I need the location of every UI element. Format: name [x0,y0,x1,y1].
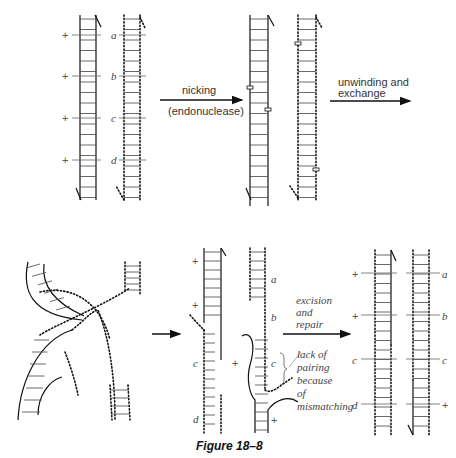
marker-lines [72,35,146,160]
strand-dotted [116,186,124,200]
strand-dotted [40,290,110,340]
mismatch-annotation: lack of pairing because of mismatching [280,348,354,412]
dotted-duplex [116,15,145,202]
strand-solid [268,15,274,26]
annotation-line-1: lack of [297,348,329,360]
figure-diagram: + + + + a b c d nicking (endonuclease) u… [0,0,456,458]
marker-c: c [271,357,276,369]
marker-plus: + [442,399,448,411]
panel-nicked [246,15,322,206]
strand-dotted [316,17,322,28]
marker-d: d [111,154,117,166]
step-label-and: and [296,306,313,318]
step-label-excision: excision [296,294,333,306]
marker-plus-1: + [62,29,68,41]
annotation-line-5: mismatching [297,400,354,412]
strand-solid [242,335,255,433]
marker-a: a [111,29,117,41]
base-pair [26,264,40,268]
marker-c: c [111,112,116,124]
marker-plus: + [352,310,358,322]
marker-c: c [442,354,447,366]
nick-icon [265,108,271,111]
panel-repaired [361,250,440,435]
marker-b: b [111,70,117,82]
marker-plus-3: + [62,112,68,124]
strand-solid [221,248,226,256]
nick-icon [247,86,253,89]
step-label-nicking: nicking [182,84,216,96]
solid-duplex-nicked [246,15,274,206]
annotation-line-3: because [297,374,333,386]
panel-exchange [18,262,140,420]
figure-caption: Figure 18–8 [196,439,263,453]
strand-dotted [265,378,292,391]
panel-initial: + + + + a b c d [62,15,146,202]
strand-solid [18,330,72,420]
marker-plus-2: + [62,70,68,82]
marker-plus: + [192,255,198,267]
marker-plus-4: + [62,154,68,166]
panel-heteroduplex [190,248,298,433]
step-unwinding: unwinding and exchange [330,76,410,101]
marker-a: a [442,268,448,280]
marker-c: c [193,357,198,369]
step-nicking: nicking (endonuclease) [160,84,244,117]
strand-solid [408,425,413,435]
strand-solid [38,377,62,415]
marker-plus: + [192,299,198,311]
marker-d: d [352,399,358,411]
marker-plus: + [232,357,238,369]
nick-icon [313,168,319,171]
step-label-endonuclease: (endonuclease) [168,105,244,117]
step-label-repair: repair [296,318,324,330]
strand-dotted [290,186,298,198]
dotted-duplex-nicked [290,15,322,202]
marker-b: b [442,310,448,322]
marker-d: d [193,413,199,425]
strand-solid [391,250,396,261]
marker-b: b [271,311,277,323]
marker-plus: + [352,268,358,280]
step-excision-repair: excision and repair [283,294,350,334]
step-label-exchange: exchange [338,87,386,99]
nick-icon [295,42,301,45]
solid-duplex [76,15,101,200]
strand-dotted [190,315,204,330]
strand-dotted [65,352,78,395]
strand-dotted [72,310,115,420]
annotation-line-4: of [297,387,308,399]
marker-a: a [271,273,277,285]
marker-c: c [352,354,357,366]
brace-icon [280,353,287,385]
annotation-line-2: pairing [296,361,330,373]
marker-plus: + [271,414,277,426]
